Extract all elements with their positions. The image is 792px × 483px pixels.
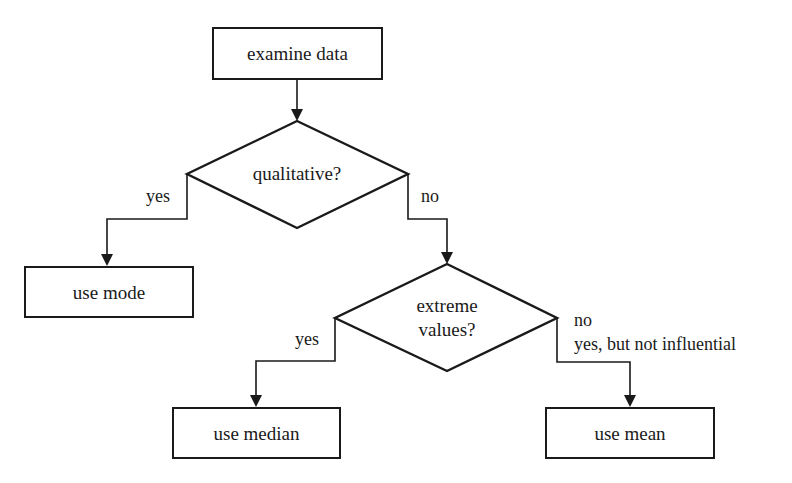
decision-extreme-label: extreme values?	[397, 294, 497, 342]
node-use-mean-label: use mean	[594, 424, 665, 443]
edge-label-qualitative-no: no	[421, 187, 439, 205]
edge-label-extreme-yes: yes	[295, 330, 319, 348]
arrowhead-icon	[101, 254, 113, 266]
arrowhead-icon	[624, 395, 636, 407]
edge-label-extreme-no-line1: no	[574, 311, 592, 329]
node-use-median-label: use median	[213, 424, 299, 443]
node-use-mode-label: use mode	[73, 283, 145, 302]
edge-qualitative-yes	[101, 174, 187, 266]
node-examine-data-label: examine data	[247, 44, 348, 63]
edge-start-to-qualitative	[291, 80, 303, 121]
node-use-mode: use mode	[24, 266, 194, 318]
edge-label-qualitative-yes: yes	[146, 187, 170, 205]
node-use-mean: use mean	[545, 407, 715, 459]
decision-extreme-line1: extreme	[397, 294, 497, 318]
flowchart: examine data use mode use median use mea…	[0, 0, 792, 483]
arrowhead-icon	[441, 252, 453, 264]
node-use-median: use median	[172, 407, 341, 459]
decision-extreme-line2: values?	[397, 318, 497, 342]
arrowhead-icon	[291, 109, 303, 121]
edge-extreme-no	[557, 318, 636, 407]
edge-extreme-yes	[250, 318, 335, 407]
node-examine-data: examine data	[212, 27, 383, 80]
arrowhead-icon	[250, 395, 262, 407]
edge-label-extreme-no-line2: yes, but not influential	[574, 335, 736, 353]
decision-qualitative-label: qualitative?	[237, 162, 357, 186]
decision-qualitative-text: qualitative?	[253, 163, 342, 184]
